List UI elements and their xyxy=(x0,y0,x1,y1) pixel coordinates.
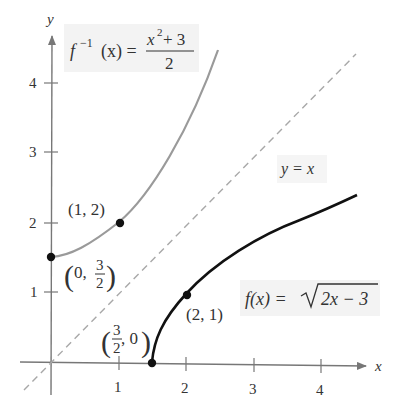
x-tick-label-4: 4 xyxy=(316,382,324,398)
point-label-2-1: (2, 1) xyxy=(186,305,223,324)
identity-label: y = x xyxy=(279,160,314,178)
y-tick-label-4: 4 xyxy=(29,75,37,91)
svg-text:): ) xyxy=(141,325,151,359)
y-axis xyxy=(51,36,52,395)
x-tick-label-3: 3 xyxy=(249,381,257,397)
point-2-1 xyxy=(183,291,191,299)
point-label-3-2-0: ( 3 2 , 0 ) xyxy=(101,322,151,359)
identity-line xyxy=(24,54,356,390)
point-label-0-3-2: ( 0, 3 2 ) xyxy=(64,257,116,293)
svg-text:x: x xyxy=(146,30,155,49)
svg-text:2x − 3: 2x − 3 xyxy=(321,289,368,309)
svg-text:(: ( xyxy=(101,325,111,359)
svg-text:2: 2 xyxy=(165,54,174,73)
svg-text:2: 2 xyxy=(96,275,104,291)
svg-text:−1: −1 xyxy=(80,36,93,50)
svg-text:f(x) =: f(x) = xyxy=(245,289,287,310)
x-tick-label-1: 1 xyxy=(114,379,122,395)
point-1-2 xyxy=(116,219,124,227)
svg-text:2: 2 xyxy=(157,26,163,38)
svg-text:3: 3 xyxy=(96,257,104,273)
x-axis xyxy=(20,362,366,366)
svg-text:(: ( xyxy=(64,259,74,293)
inverse-function-curve xyxy=(51,50,218,257)
svg-text:3: 3 xyxy=(113,322,121,338)
x-axis-label: x xyxy=(374,358,382,374)
svg-text:, 0: , 0 xyxy=(121,329,138,348)
svg-text:2: 2 xyxy=(113,340,121,356)
y-tick-label-2: 2 xyxy=(29,215,37,231)
svg-text:(x) =: (x) = xyxy=(101,41,137,62)
y-tick-label-1: 1 xyxy=(30,284,38,300)
point-label-1-2: (1, 2) xyxy=(68,200,105,219)
svg-text:): ) xyxy=(106,259,116,293)
svg-text:0,: 0, xyxy=(74,263,87,282)
y-axis-label: y xyxy=(45,11,54,27)
point-3-2-0 xyxy=(148,359,156,367)
function-curve xyxy=(152,195,357,362)
y-tick-label-3: 3 xyxy=(29,144,37,160)
point-0-3-2 xyxy=(47,253,55,261)
svg-text:+ 3: + 3 xyxy=(163,30,185,49)
x-tick-label-2: 2 xyxy=(181,380,189,396)
function-inverse-plot: x y 1 2 3 4 1 2 3 4 f −1 (x) = x 2 + 3 2 xyxy=(0,0,402,414)
